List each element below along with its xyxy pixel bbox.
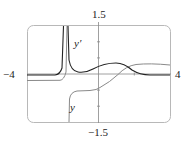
plot-area (0, 0, 190, 144)
yprime-curve-label: y′ (74, 38, 81, 49)
y-min-label: −1.5 (88, 127, 108, 138)
y-max-label: 1.5 (92, 9, 106, 20)
y-curve-label: y (70, 102, 75, 113)
x-min-label: −4 (3, 69, 15, 80)
x-max-label: 4 (175, 69, 181, 80)
